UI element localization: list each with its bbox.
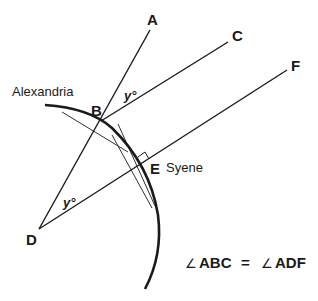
angle-label-D: y° bbox=[62, 195, 76, 210]
label-alexandria: Alexandria bbox=[12, 84, 74, 99]
label-C: C bbox=[232, 27, 243, 44]
label-syene: Syene bbox=[166, 160, 203, 175]
label-B: B bbox=[91, 102, 102, 119]
label-A: A bbox=[147, 11, 158, 28]
angle-label-B: y° bbox=[123, 88, 137, 103]
equation-right: ADF bbox=[275, 254, 306, 271]
angle-symbol-right: ∠ bbox=[261, 256, 273, 271]
equation-left: ABC bbox=[199, 254, 232, 271]
equation-equals: = bbox=[241, 254, 250, 271]
geometry-figure: A C F B D E Alexandria Syene y° y° ∠ ABC… bbox=[0, 0, 318, 301]
label-E: E bbox=[150, 160, 160, 177]
line-DF bbox=[39, 70, 287, 229]
ray-BC bbox=[101, 42, 228, 121]
right-angle-marker bbox=[138, 152, 149, 159]
eratosthenes-diagram: A C F B D E Alexandria Syene y° y° ∠ ABC… bbox=[0, 0, 318, 301]
label-F: F bbox=[291, 57, 300, 74]
angle-symbol-left: ∠ bbox=[185, 256, 197, 271]
line-DA bbox=[39, 30, 150, 229]
tangent-at-E-2 bbox=[112, 135, 152, 208]
label-D: D bbox=[26, 231, 37, 248]
